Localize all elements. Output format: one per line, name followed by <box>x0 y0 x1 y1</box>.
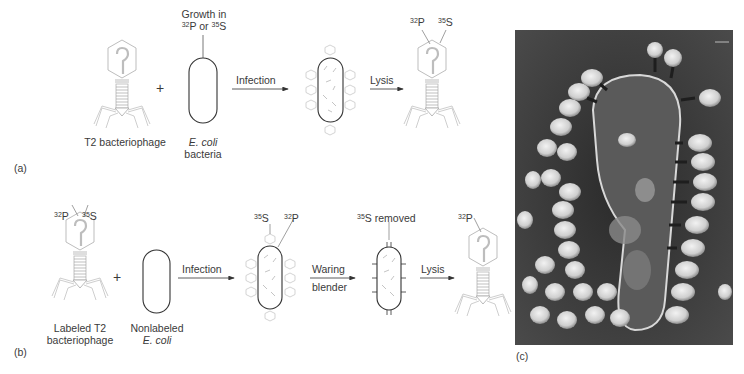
labeled-t2-phage-icon <box>52 212 108 300</box>
panel-a <box>94 30 460 135</box>
removed-label: 35S removed <box>357 212 416 224</box>
plus-sign-b: + <box>113 271 121 283</box>
t2-phage-label: T2 bacteriophage <box>80 136 170 148</box>
progeny-label-32p: 32P <box>458 212 473 224</box>
panel-a-label: (a) <box>14 162 27 174</box>
plus-sign-a: + <box>156 82 164 94</box>
nonlabeled-ecoli-label: Nonlabeled E. coli <box>126 322 188 346</box>
infected-cell-icon <box>306 45 355 135</box>
panel-b-label: (b) <box>14 346 27 358</box>
waring-blender-label-1: Waring <box>312 263 345 275</box>
nonlabeled-ecoli-icon <box>143 250 170 313</box>
progeny-phage-icon <box>455 228 511 316</box>
phage-label-32p: 32P <box>54 210 69 222</box>
waring-blender-label-2: blender <box>312 281 347 293</box>
infected-label-35s: 35S <box>254 212 269 224</box>
phage-label-35s: 35S <box>82 210 97 222</box>
panel-c-label: (c) <box>516 350 528 362</box>
t2-phage-icon <box>94 40 150 128</box>
ecoli-cell-icon <box>189 58 217 123</box>
infection-label-a: Infection <box>236 74 276 86</box>
lysis-label-b: Lysis <box>421 263 445 275</box>
labeled-phage-icon <box>404 40 460 128</box>
lysis-label-a: Lysis <box>370 74 394 86</box>
result-label-32p: 32P <box>410 16 425 28</box>
ecoli-bacteria-label: E. coli bacteria <box>180 136 226 160</box>
growth-label: Growth in 32P or 35S <box>176 8 232 32</box>
labeled-phage-label: Labeled T2 bacteriophage <box>40 322 120 346</box>
blended-cell-icon <box>372 222 406 315</box>
result-label-35s: 35S <box>438 16 453 28</box>
infection-label-b: Infection <box>182 263 222 275</box>
micrograph-image <box>515 30 733 345</box>
electron-micrograph <box>515 30 733 345</box>
infected-label-32p: 32P <box>284 212 299 224</box>
infected-cell-b-icon <box>246 220 295 321</box>
